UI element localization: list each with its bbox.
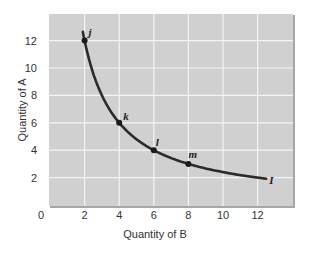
y-tick-label: 12 bbox=[25, 35, 37, 47]
y-tick-label: 2 bbox=[31, 172, 37, 184]
x-tick-labels: 024681012 bbox=[38, 209, 264, 221]
x-tick-label: 4 bbox=[116, 209, 122, 221]
point-label-m: m bbox=[188, 148, 197, 160]
point-j bbox=[82, 38, 88, 44]
x-tick-label: 0 bbox=[38, 209, 44, 221]
x-tick-label: 8 bbox=[185, 209, 191, 221]
x-axis-label: Quantity of B bbox=[123, 228, 187, 240]
x-tick-label: 6 bbox=[151, 209, 157, 221]
point-m bbox=[185, 161, 191, 167]
curve-label: I bbox=[268, 174, 274, 186]
point-k bbox=[116, 120, 122, 126]
x-tick-label: 12 bbox=[251, 209, 263, 221]
y-tick-label: 4 bbox=[31, 144, 37, 156]
y-tick-label: 6 bbox=[31, 117, 37, 129]
y-tick-label: 10 bbox=[25, 62, 37, 74]
x-tick-label: 10 bbox=[217, 209, 229, 221]
point-label-k: k bbox=[123, 110, 129, 122]
y-tick-label: 8 bbox=[31, 89, 37, 101]
y-axis-label: Quantity of A bbox=[16, 78, 28, 142]
x-tick-label: 2 bbox=[82, 209, 88, 221]
indifference-curve-chart: I jklm 024681012 24681012 Quantity of B … bbox=[0, 0, 311, 254]
